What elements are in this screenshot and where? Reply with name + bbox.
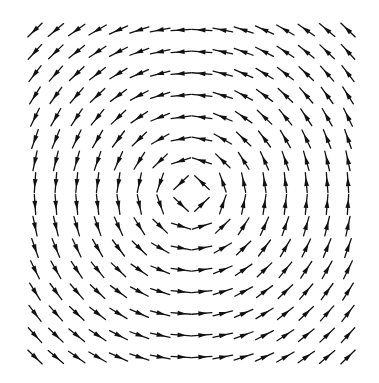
vector-arrow: [257, 110, 271, 124]
vector-arrow: [192, 137, 212, 142]
vector-arrow: [171, 354, 191, 359]
vector-arrow: [235, 112, 252, 123]
vector-arrow: [131, 112, 148, 123]
vector-arrow: [242, 173, 247, 193]
vector-arrow: [174, 176, 188, 190]
vector-arrow: [298, 351, 314, 363]
vector-arrow: [346, 173, 351, 193]
vector-arrow: [214, 243, 231, 253]
vector-arrow: [259, 131, 271, 147]
vector-arrow: [299, 306, 313, 320]
vector-arrow: [95, 194, 100, 214]
vector-arrow: [28, 328, 41, 343]
vector-arrow: [298, 24, 314, 36]
vector-arrow: [137, 173, 142, 193]
vector-arrow: [73, 217, 79, 236]
vector-arrow: [280, 130, 290, 147]
vector-arrow: [192, 268, 212, 273]
vector-arrow: [109, 353, 127, 361]
vector-arrow: [192, 28, 212, 33]
vector-arrow: [213, 311, 232, 317]
vector-arrow: [213, 50, 233, 55]
vector-arrow: [171, 114, 191, 119]
vector-arrow: [131, 287, 149, 296]
vector-arrow: [153, 219, 167, 233]
vector-arrow: [279, 109, 292, 125]
vector-arrow: [304, 151, 310, 170]
vector-arrow: [130, 309, 148, 317]
vector-arrow: [172, 157, 191, 163]
vector-arrow: [256, 308, 273, 318]
vector-arrow: [53, 194, 58, 214]
vector-arrow: [151, 288, 170, 294]
vector-arrow: [152, 243, 169, 253]
vector-arrow: [70, 306, 84, 320]
vector-arrow: [69, 351, 85, 363]
vector-arrow: [346, 151, 351, 171]
vector-arrow: [214, 113, 233, 121]
vector-arrow: [257, 263, 271, 277]
vector-arrow: [114, 217, 122, 235]
vector-arrow: [192, 311, 212, 316]
vector-arrow: [213, 355, 233, 360]
vector-arrow: [213, 92, 232, 98]
vector-arrow: [151, 310, 170, 316]
vector-arrow: [236, 241, 250, 255]
vector-arrow: [277, 25, 294, 35]
vector-arrow: [69, 329, 85, 342]
vector-arrow: [171, 71, 191, 76]
vector-arrow: [172, 223, 191, 229]
vector-arrow: [320, 45, 334, 59]
vector-arrow: [150, 27, 170, 32]
vector-arrow: [130, 27, 149, 33]
vector-arrow: [29, 305, 41, 321]
vector-arrow: [234, 48, 253, 55]
vector-arrow: [150, 49, 170, 54]
vector-arrow: [33, 173, 38, 193]
vector-arrow: [89, 46, 106, 57]
vector-arrow: [54, 151, 60, 170]
vector-arrow: [171, 136, 191, 141]
vector-arrow: [50, 87, 62, 103]
vector-arrow: [278, 88, 292, 102]
vector-arrow: [151, 70, 170, 76]
vector-arrow: [29, 66, 41, 82]
vector-arrow: [219, 195, 226, 214]
vector-field-diagram: [0, 0, 379, 383]
vector-arrow: [238, 152, 249, 169]
vector-arrow: [321, 284, 333, 300]
vector-arrow: [234, 27, 253, 33]
vector-arrow: [114, 152, 122, 170]
vector-arrow: [325, 173, 330, 193]
vector-arrow: [150, 332, 170, 337]
vector-arrow: [213, 71, 232, 77]
vector-arrow: [49, 45, 63, 59]
vector-arrow: [256, 331, 274, 340]
vector-arrow: [344, 261, 353, 279]
vector-arrow: [321, 66, 334, 81]
vector-arrow: [74, 194, 79, 214]
vector-arrow: [136, 195, 141, 215]
vector-arrow: [152, 134, 169, 144]
vector-arrow: [112, 131, 124, 147]
vector-arrow: [151, 92, 170, 98]
vector-arrow: [322, 261, 332, 278]
vector-arrow: [234, 354, 253, 360]
vector-arrow: [302, 239, 311, 257]
vector-arrow: [260, 217, 268, 235]
vector-arrow: [238, 218, 249, 235]
vector-arrow: [235, 264, 252, 275]
vector-arrow: [319, 351, 334, 364]
vector-arrow: [324, 194, 329, 214]
vector-arrow: [32, 239, 39, 258]
vector-arrow: [28, 350, 42, 364]
vector-arrow: [72, 130, 81, 148]
vector-arrow: [220, 173, 227, 192]
vector-arrow: [278, 285, 292, 299]
vector-arrow: [70, 88, 83, 103]
vector-arrow: [341, 350, 355, 364]
vector-arrow: [116, 195, 121, 215]
vector-arrow: [49, 66, 62, 81]
vector-arrow: [345, 194, 350, 214]
vector-arrow: [301, 261, 312, 278]
